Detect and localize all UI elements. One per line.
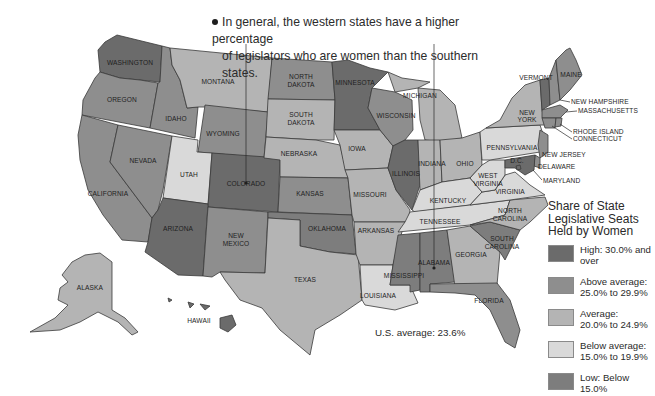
label-north-dakota-2: DAKOTA xyxy=(287,81,315,88)
label-pennsylvania: PENNSYLVANIA xyxy=(487,144,538,151)
legend-item-low: Low: Below 15.0% xyxy=(548,372,655,396)
label-new-jersey: NEW JERSEY xyxy=(542,151,586,158)
label-west-virginia-1: WEST xyxy=(478,172,497,179)
label-new-mexico-2: MEXICO xyxy=(223,240,250,247)
label-hawaii: HAWAII xyxy=(187,317,211,324)
label-new-mexico-1: NEW xyxy=(228,232,244,239)
label-colorado: COLORADO xyxy=(227,180,266,187)
label-indiana: INDIANA xyxy=(418,160,446,167)
state-dc[interactable] xyxy=(516,165,521,170)
legend-label-high: High: 30.0% and xyxy=(580,244,651,255)
label-kentucky: KENTUCKY xyxy=(430,197,467,204)
label-nevada: NEVADA xyxy=(129,157,157,164)
label-dc: D.C. xyxy=(510,157,524,164)
state-florida[interactable] xyxy=(430,283,520,348)
legend: Share of State Legislative Seats Held by… xyxy=(548,200,655,396)
leader-new-hampshire xyxy=(560,100,570,102)
legend-swatch-below-average xyxy=(548,341,574,358)
legend-title-line-3: Held by Women xyxy=(548,225,655,238)
label-wyoming: WYOMING xyxy=(206,130,240,137)
state-connecticut[interactable] xyxy=(542,118,556,128)
label-iowa: IOWA xyxy=(348,145,366,152)
legend-swatch-high xyxy=(548,245,574,262)
legend-title-line-1: Share of State xyxy=(548,200,655,213)
label-south-dakota-2: DAKOTA xyxy=(287,119,315,126)
label-texas: TEXAS xyxy=(294,276,317,283)
state-vermont[interactable] xyxy=(540,78,550,110)
label-new-york-1: NEW xyxy=(519,109,535,116)
label-south-carolina-1: SOUTH xyxy=(490,235,514,242)
label-georgia: GEORGIA xyxy=(455,251,487,258)
state-alaska[interactable] xyxy=(30,253,138,335)
label-west-virginia-2: VIRGINIA xyxy=(473,180,503,187)
label-south-carolina-2: CAROLINA xyxy=(485,243,520,250)
label-ohio: OHIO xyxy=(456,160,473,167)
state-rhode-island[interactable] xyxy=(555,118,562,127)
label-michigan: MICHIGAN xyxy=(403,92,437,99)
leader-massachusetts xyxy=(566,111,577,112)
legend-sublabel-below-average: 15.0% to 19.9% xyxy=(580,351,648,362)
label-new-york-2: YORK xyxy=(517,116,537,123)
leader-connecticut xyxy=(552,126,572,139)
label-north-carolina-1: NORTH xyxy=(498,207,522,214)
legend-item-above-average: Above average: 25.0% to 29.9% xyxy=(548,276,655,300)
label-illinois: ILLINOIS xyxy=(392,170,420,177)
legend-sublabel-low: 15.0% xyxy=(580,383,629,394)
legend-item-below-average: Below average: 15.0% to 19.9% xyxy=(548,340,655,364)
legend-label-below-average: Below average: xyxy=(580,340,648,351)
legend-label-average: Average: xyxy=(580,308,648,319)
legend-sublabel-above-average: 25.0% to 29.9% xyxy=(580,287,648,298)
legend-item-average: Average: 20.0% to 24.9% xyxy=(548,308,655,332)
label-mississippi: MISSISSIPPI xyxy=(384,272,424,279)
label-missouri: MISSOURI xyxy=(353,191,386,198)
state-hawaii[interactable] xyxy=(168,298,236,332)
label-connecticut: CONNECTICUT xyxy=(573,135,622,142)
legend-swatch-average xyxy=(548,309,574,326)
label-kansas: KANSAS xyxy=(296,190,324,197)
callout-line-1: In general, the western states have a hi… xyxy=(212,15,459,46)
label-alabama: ALABAMA xyxy=(418,259,450,266)
label-maryland: MARYLAND xyxy=(543,177,580,184)
label-wisconsin: WISCONSIN xyxy=(377,112,416,119)
callout-annotation: In general, the western states have a hi… xyxy=(212,14,512,82)
label-delaware: DELAWARE xyxy=(538,163,576,170)
label-washington: WASHINGTON xyxy=(107,59,153,66)
label-virginia: VIRGINIA xyxy=(495,188,525,195)
label-nebraska: NEBRASKA xyxy=(281,150,318,157)
label-massachusetts: MASSACHUSETTS xyxy=(578,107,638,114)
label-arkansas: ARKANSAS xyxy=(358,227,395,234)
callout-line-2: of legislators who are women than the so… xyxy=(212,48,512,82)
label-oklahoma: OKLAHOMA xyxy=(308,225,347,232)
leader-maryland xyxy=(533,170,542,180)
legend-item-high: High: 30.0% and over xyxy=(548,244,655,268)
legend-sublabel-high: over xyxy=(580,255,651,266)
label-maine: MAINE xyxy=(560,71,582,78)
label-louisiana: LOUISIANA xyxy=(360,292,397,299)
legend-sublabel-average: 20.0% to 24.9% xyxy=(580,319,648,330)
label-tennessee: TENNESSEE xyxy=(420,218,461,225)
legend-swatch-above-average xyxy=(548,277,574,294)
label-florida: FLORIDA xyxy=(474,297,504,304)
label-vermont: VERMONT xyxy=(519,74,553,81)
label-alaska: ALASKA xyxy=(77,284,104,291)
legend-label-above-average: Above average: xyxy=(580,276,648,287)
bullet-dot-icon xyxy=(212,19,218,25)
label-utah: UTAH xyxy=(180,171,198,178)
label-rhode-island: RHODE ISLAND xyxy=(573,128,624,135)
label-oregon: OREGON xyxy=(107,96,137,103)
label-south-dakota-1: SOUTH xyxy=(289,111,313,118)
label-north-carolina-2: CAROLINA xyxy=(493,215,528,222)
callout-point-alabama xyxy=(432,266,435,269)
legend-label-low: Low: Below xyxy=(580,372,629,383)
legend-title: Share of State Legislative Seats Held by… xyxy=(548,200,655,238)
label-arizona: ARIZONA xyxy=(163,225,194,232)
legend-swatch-low xyxy=(548,373,574,390)
label-california: CALIFORNIA xyxy=(88,190,129,197)
us-average-label: U.S. average: 23.6% xyxy=(375,327,465,338)
label-idaho: IDAHO xyxy=(165,115,186,122)
label-new-hampshire: NEW HAMPSHIRE xyxy=(571,98,629,105)
leader-rhode-island xyxy=(560,124,572,132)
